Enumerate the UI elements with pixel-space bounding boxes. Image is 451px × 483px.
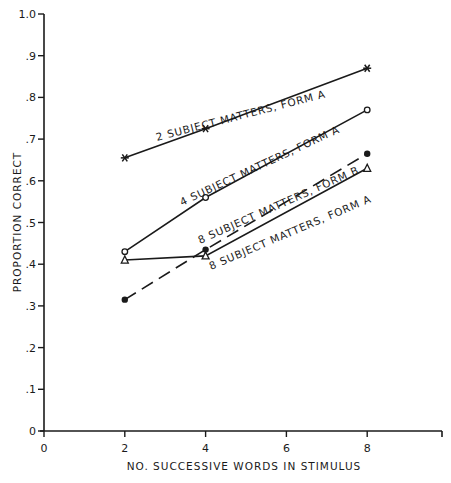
y-tick-label: .6 bbox=[26, 175, 37, 188]
y-axis-title: PROPORTION CORRECT bbox=[11, 152, 23, 293]
x-tick-label: 6 bbox=[283, 442, 290, 455]
asterisk-marker-icon bbox=[363, 65, 371, 72]
open-triangle-marker-icon bbox=[202, 252, 209, 259]
y-tick-label: .5 bbox=[26, 217, 37, 230]
open-triangle-marker-icon bbox=[121, 256, 128, 263]
y-tick-label: .2 bbox=[26, 342, 37, 355]
filled-circle-marker-icon bbox=[122, 296, 128, 302]
x-axis-title: NO. SUCCESSIVE WORDS IN STIMULUS bbox=[127, 460, 362, 472]
y-tick-label: .3 bbox=[26, 300, 37, 313]
x-axis-ticks: 02468 bbox=[41, 431, 371, 455]
x-tick-label: 0 bbox=[41, 442, 48, 455]
y-tick-label: 1.0 bbox=[19, 8, 37, 21]
y-tick-label: .4 bbox=[26, 258, 37, 271]
series-label-2sm-form-a: 2 SUBJECT MATTERS, FORM A bbox=[154, 88, 326, 143]
y-tick-label: .7 bbox=[26, 133, 37, 146]
y-tick-label: 0 bbox=[29, 425, 36, 438]
y-tick-label: .1 bbox=[26, 383, 37, 396]
filled-circle-marker-icon bbox=[364, 150, 370, 156]
y-tick-label: .8 bbox=[26, 91, 37, 104]
x-tick-label: 4 bbox=[202, 442, 209, 455]
open-circle-marker-icon bbox=[364, 107, 370, 113]
x-tick-label: 2 bbox=[121, 442, 128, 455]
line-chart: 0.1.2.3.4.5.6.7.8.91.0 02468 PROPORTION … bbox=[0, 0, 451, 483]
x-tick-label: 8 bbox=[364, 442, 371, 455]
y-tick-label: .9 bbox=[26, 50, 37, 63]
open-triangle-marker-icon bbox=[364, 164, 371, 171]
asterisk-marker-icon bbox=[121, 154, 129, 161]
open-circle-marker-icon bbox=[122, 249, 128, 255]
